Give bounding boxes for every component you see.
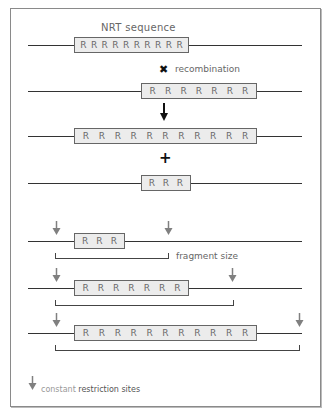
repeat-unit: R — [146, 329, 152, 338]
repeat-unit: R — [115, 132, 121, 141]
repeat-unit: R — [150, 87, 156, 96]
repeat-unit: R — [227, 87, 233, 96]
repeat-unit: R — [82, 237, 88, 246]
repeat-box-row4: R R R — [141, 175, 191, 191]
fragment-size-label: fragment size — [176, 251, 238, 261]
repeat-unit: R — [144, 284, 150, 293]
cross-icon: ✖ — [159, 64, 168, 75]
repeat-box-row3: R R R R R R R R R R R — [74, 128, 257, 144]
repeat-unit: R — [134, 41, 140, 50]
plus-icon: + — [159, 151, 172, 166]
restriction-site-legend-icon — [28, 376, 37, 390]
repeat-unit: R — [99, 132, 105, 141]
repeat-unit: R — [83, 284, 89, 293]
repeat-box-row7: R R R R R R R R R R R — [74, 325, 257, 341]
repeat-unit: R — [96, 237, 102, 246]
repeat-unit: R — [123, 41, 129, 50]
repeat-unit: R — [99, 329, 105, 338]
repeat-unit: R — [159, 284, 165, 293]
repeat-unit: R — [242, 87, 248, 96]
repeat-unit: R — [83, 132, 89, 141]
repeat-box-row1: R R R R R R R R R R — [74, 37, 189, 53]
repeat-unit: R — [155, 41, 161, 50]
down-arrow-icon — [160, 103, 168, 121]
legend-text: constant restriction sites — [41, 385, 140, 394]
restriction-site-arrow-icon — [52, 221, 61, 235]
legend-word-restriction-sites: restriction sites — [78, 385, 140, 394]
repeat-unit: R — [144, 41, 150, 50]
repeat-unit: R — [162, 132, 168, 141]
restriction-site-arrow-icon — [228, 268, 237, 282]
fragment-bracket-row7 — [55, 345, 300, 351]
recombination-label: recombination — [175, 64, 240, 74]
repeat-unit: R — [98, 284, 104, 293]
repeat-unit: R — [242, 132, 248, 141]
repeat-unit: R — [174, 284, 180, 293]
repeat-unit: R — [102, 41, 108, 50]
repeat-unit: R — [80, 41, 86, 50]
repeat-unit: R — [176, 41, 182, 50]
repeat-unit: R — [194, 132, 200, 141]
repeat-unit: R — [149, 179, 155, 188]
restriction-site-arrow-icon — [52, 313, 61, 327]
repeat-unit: R — [166, 41, 172, 50]
repeat-unit: R — [162, 329, 168, 338]
nrt-sequence-label: NRT sequence — [101, 22, 176, 33]
repeat-unit: R — [210, 132, 216, 141]
repeat-unit: R — [226, 132, 232, 141]
repeat-unit: R — [115, 329, 121, 338]
repeat-unit: R — [91, 41, 97, 50]
fragment-bracket-row5 — [55, 253, 169, 259]
dna-line-row5 — [28, 241, 302, 242]
repeat-unit: R — [211, 87, 217, 96]
repeat-unit: R — [178, 132, 184, 141]
repeat-unit: R — [112, 41, 118, 50]
repeat-unit: R — [194, 329, 200, 338]
repeat-box-row5: R R R — [74, 233, 125, 249]
repeat-unit: R — [128, 284, 134, 293]
repeat-unit: R — [131, 329, 137, 338]
legend-word-constant: constant — [41, 385, 76, 394]
repeat-unit: R — [177, 179, 183, 188]
repeat-unit: R — [113, 284, 119, 293]
repeat-unit: R — [111, 237, 117, 246]
repeat-unit: R — [146, 132, 152, 141]
restriction-site-arrow-icon — [295, 313, 304, 327]
fragment-bracket-row6 — [55, 300, 234, 306]
repeat-unit: R — [180, 87, 186, 96]
repeat-unit: R — [83, 329, 89, 338]
restriction-site-arrow-icon — [164, 221, 173, 235]
repeat-unit: R — [210, 329, 216, 338]
repeat-unit: R — [178, 329, 184, 338]
repeat-unit: R — [165, 87, 171, 96]
repeat-box-row6: R R R R R R R — [74, 280, 189, 296]
repeat-unit: R — [196, 87, 202, 96]
repeat-unit: R — [131, 132, 137, 141]
repeat-box-row2: R R R R R R R — [141, 83, 257, 99]
repeat-unit: R — [242, 329, 248, 338]
repeat-unit: R — [226, 329, 232, 338]
restriction-site-arrow-icon — [52, 268, 61, 282]
repeat-unit: R — [163, 179, 169, 188]
